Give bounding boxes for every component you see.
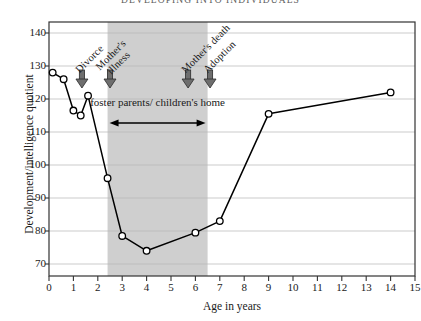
shaded-band-label: foster parents/ children's home — [88, 96, 228, 109]
data-point-marker — [192, 229, 199, 236]
band-label-line1: foster parents/ — [90, 96, 153, 108]
data-point-marker — [60, 76, 67, 83]
data-point-marker — [143, 248, 150, 255]
data-point-marker — [119, 233, 126, 240]
data-point-marker — [104, 175, 111, 182]
data-point-marker — [387, 89, 394, 96]
data-point-marker — [70, 107, 77, 114]
data-point-marker — [49, 69, 56, 76]
data-point-marker — [217, 218, 224, 225]
band-label-line2: children's home — [156, 96, 226, 108]
chart-figure: DEVELOPING INTO INDIVIDUALS Development/… — [0, 0, 421, 321]
data-point-marker — [77, 112, 84, 119]
data-point-marker — [265, 111, 272, 118]
